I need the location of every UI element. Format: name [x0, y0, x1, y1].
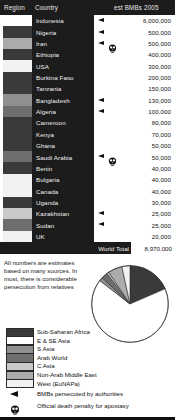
country-name: UK [36, 233, 45, 240]
table-row: Bulgaria40,000 [0, 174, 175, 185]
region-color-swatch [3, 72, 32, 83]
bmb-estimate-value: 25,000 [152, 210, 171, 217]
legend-marker-items: BMBs persecuted by authoritiesOfficial d… [4, 387, 172, 411]
arrow-marker-icon [98, 18, 104, 22]
legend-item: Sub-Saharan Africa [4, 327, 172, 336]
table-row: Uganda30,000 [0, 197, 175, 208]
skull-marker-icon [108, 152, 117, 161]
table-row: Canada40,000 [0, 185, 175, 196]
region-color-swatch [3, 219, 32, 230]
bmb-estimate-value: 80,000 [152, 119, 171, 126]
arrow-marker-icon [98, 41, 104, 45]
bmb-estimate-value: 25,000 [152, 222, 171, 229]
table-row: Benin40,000 [0, 162, 175, 173]
legend: Sub-Saharan AfricaE & SE AsiaS AsiaArab … [4, 327, 172, 411]
table-row: USA300,000 [0, 60, 175, 71]
infographic-root: Region Country est BMBs 2005 Indonesia6,… [0, 0, 175, 420]
arrow-marker-icon [10, 391, 18, 397]
skull-marker-icon [10, 401, 24, 410]
country-name: Bangladesh [36, 97, 70, 104]
table-row: UK20,000 [0, 231, 175, 242]
region-color-swatch [3, 94, 32, 105]
country-name: Benin [36, 165, 52, 172]
arrow-marker-icon [98, 98, 104, 102]
country-name: Kenya [36, 131, 54, 138]
legend-item-label: S Asia [37, 345, 54, 352]
legend-marker-label: Official death penalty for apostasy [37, 402, 129, 409]
bmb-estimate-value: 150,000 [148, 85, 171, 92]
legend-item: Non-Arab Middle East [4, 370, 172, 379]
region-color-swatch [3, 128, 32, 139]
bmb-estimate-value: 40,000 [152, 176, 171, 183]
legend-item: E & SE Asia [4, 336, 172, 345]
world-total-row: World Total 8,970,000 [0, 242, 175, 254]
legend-item: S Asia [4, 344, 172, 353]
legend-item: West (EuNAPa) [4, 379, 172, 388]
arrow-marker-icon [98, 222, 104, 226]
skull-icon [10, 405, 20, 415]
bmb-estimate-value: 40,000 [152, 165, 171, 172]
skull-marker-icon [108, 39, 117, 48]
table-header: Region Country est BMBs 2005 [0, 0, 175, 15]
column-header-country: Country [35, 4, 58, 11]
table-row: Bangladesh130,000 [0, 94, 175, 105]
legend-item: Arab World [4, 353, 172, 362]
world-total-value: 8,970,000 [144, 245, 172, 252]
region-color-swatch [3, 117, 32, 128]
bmb-estimate-value: 500,000 [148, 40, 171, 47]
table-row: Ethiopia400,000 [0, 49, 175, 60]
country-name: Ethiopia [36, 51, 59, 58]
legend-region-swatches: Sub-Saharan AfricaE & SE AsiaS AsiaArab … [4, 327, 172, 387]
arrow-marker-icon [98, 109, 104, 113]
bmb-estimate-value: 50,000 [152, 142, 171, 149]
legend-item-label: C Asia [37, 362, 55, 369]
bmb-estimate-value: 20,000 [152, 233, 171, 240]
bmb-estimate-value: 40,000 [152, 188, 171, 195]
bmb-estimate-value: 50,000 [152, 154, 171, 161]
region-color-swatch [3, 83, 32, 94]
legend-item: C Asia [4, 361, 172, 370]
arrow-marker-icon [98, 211, 104, 215]
legend-item-label: E & SE Asia [37, 337, 70, 344]
legend-item-label: West (EuNAPa) [37, 380, 80, 387]
country-table: Indonesia6,000,000Nigeria500,000Iran500,… [0, 15, 175, 242]
table-row: Algeria100,000 [0, 106, 175, 117]
country-name: Uganda [36, 199, 58, 206]
country-name: Burkina Faso [36, 74, 74, 81]
table-row: Cameroon80,000 [0, 117, 175, 128]
country-name: Canada [36, 188, 58, 195]
world-total-value-cell: 8,970,000 [131, 242, 175, 254]
region-color-swatch [3, 185, 32, 196]
bmb-estimate-value: 200,000 [148, 74, 171, 81]
table-row: Indonesia6,000,000 [0, 15, 175, 26]
region-color-swatch [3, 197, 32, 208]
region-color-swatch [3, 15, 32, 26]
arrow-marker-icon [98, 154, 104, 158]
legend-marker-label: BMBs persecuted by authorities [37, 390, 123, 397]
legend-marker-row: Official death penalty for apostasy [4, 399, 172, 411]
country-name: Nigeria [36, 29, 56, 36]
table-row: Saudi Arabia50,000 [0, 151, 175, 162]
table-row: Tanzania150,000 [0, 83, 175, 94]
world-total-label: World Total [98, 245, 129, 252]
legend-marker-row: BMBs persecuted by authorities [4, 387, 172, 399]
country-name: USA [36, 63, 49, 70]
bmb-estimate-value: 100,000 [148, 108, 171, 115]
region-color-swatch [3, 106, 32, 117]
table-row: Iran500,000 [0, 38, 175, 49]
bmb-estimate-value: 500,000 [148, 29, 171, 36]
region-color-swatch [3, 231, 32, 242]
region-color-swatch [3, 140, 32, 151]
table-row: Nigeria500,000 [0, 26, 175, 37]
column-header-est-bmbs: est BMBs 2005 [114, 4, 159, 11]
table-row: Burkina Faso200,000 [0, 72, 175, 83]
estimates-note: All numbers are estimates based on many … [4, 259, 78, 291]
region-color-swatch [3, 38, 32, 49]
legend-item-label: Non-Arab Middle East [37, 371, 97, 378]
bmb-estimate-value: 300,000 [148, 63, 171, 70]
country-name: Algeria [36, 108, 56, 115]
country-name: Ghana [36, 142, 55, 149]
country-name: Sudan [36, 222, 54, 229]
table-row: Ghana50,000 [0, 140, 175, 151]
country-name: Indonesia [36, 17, 64, 24]
